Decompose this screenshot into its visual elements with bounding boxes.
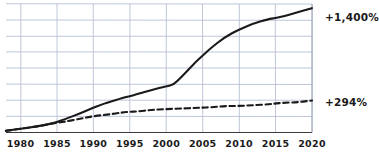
x-axis-tick-2010: 2010 (225, 138, 253, 149)
x-axis-tick-2005: 2005 (189, 138, 217, 149)
dashed-series-end-label: +294% (325, 96, 367, 108)
x-axis-tick-1985: 1985 (43, 138, 71, 149)
x-axis-tick-2000: 2000 (152, 138, 180, 149)
x-axis-tick-2020: 2020 (298, 138, 326, 149)
x-axis-tick-2015: 2015 (262, 138, 290, 149)
solid-series-line (6, 8, 312, 131)
x-axis-tick-1980: 1980 (7, 138, 35, 149)
solid-series-end-label: +1,400% (325, 11, 379, 23)
x-axis-tick-1995: 1995 (116, 138, 144, 149)
x-axis-tick-1990: 1990 (80, 138, 108, 149)
dashed-series-line (6, 100, 312, 130)
